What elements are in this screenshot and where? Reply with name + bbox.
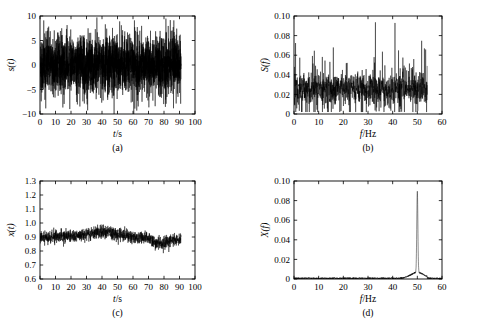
panel-a-xticklabel: 90 <box>175 117 185 127</box>
panel-a-plot: 0102030405060708090100−10−50510s(t)t/s(a… <box>0 0 248 166</box>
panel-d-caption: (d) <box>362 308 373 319</box>
panel-c-xticklabel: 30 <box>82 282 92 292</box>
panel-b-xticklabel: 60 <box>438 117 448 127</box>
panel-b-yticklabel: 0.10 <box>274 11 290 21</box>
panel-c-yticklabel: 0.7 <box>25 260 37 270</box>
panel-a-yticklabel: −5 <box>26 85 36 95</box>
panel-a-caption: (a) <box>112 143 123 154</box>
panel-b-yticklabel: 0 <box>286 109 291 119</box>
panel-b-xticklabel: 10 <box>314 117 324 127</box>
panel-c-yticklabel: 0.6 <box>25 274 37 284</box>
figure-container: 0102030405060708090100−10−50510s(t)t/s(a… <box>0 0 495 331</box>
panel-a-data-trace <box>40 17 181 114</box>
panel-b-xticklabel: 30 <box>364 117 374 127</box>
panel-b-yticklabel: 0.02 <box>274 90 290 100</box>
panel-d-xticklabel: 30 <box>364 282 374 292</box>
panel-a-xticklabel: 30 <box>82 117 92 127</box>
panel-c-xticklabel: 50 <box>113 282 123 292</box>
panel-d-yticklabel: 0 <box>286 274 291 284</box>
panel-c-xticklabel: 60 <box>129 282 139 292</box>
panel-d-yticklabel: 0.02 <box>274 255 290 265</box>
panel-c-xticklabel: 100 <box>188 282 202 292</box>
panel-d-plot: 010203040506000.020.040.060.080.10X(f)f/… <box>247 165 495 331</box>
panel-c-yticklabel: 0.8 <box>25 246 37 256</box>
panel-c-data-trace <box>40 225 181 254</box>
panel-b-xticklabel: 40 <box>388 117 398 127</box>
panel-b-plot: 010203040506000.020.040.060.080.10S(f)f/… <box>247 0 495 166</box>
panel-c-plot: 01020304050607080901000.60.70.80.91.01.1… <box>0 165 248 331</box>
panel-c-ylabel: x(t) <box>6 223 17 237</box>
panel-d-data-trace <box>294 191 442 279</box>
panel-a-xticklabel: 20 <box>67 117 77 127</box>
panel-a-xticklabel: 80 <box>160 117 170 127</box>
panel-c: 01020304050607080901000.60.70.80.91.01.1… <box>0 165 248 331</box>
panel-b-yticklabel: 0.08 <box>274 31 290 41</box>
panel-a: 0102030405060708090100−10−50510s(t)t/s(a… <box>0 0 248 166</box>
panel-c-xlabel: t/s <box>113 294 122 304</box>
panel-a-xticklabel: 50 <box>113 117 123 127</box>
panel-b-xticklabel: 0 <box>292 117 297 127</box>
panel-c-xticklabel: 10 <box>51 282 61 292</box>
panel-d-xlabel: f/Hz <box>360 294 376 304</box>
panel-a-ylabel: s(t) <box>6 59 17 72</box>
panel-d-ylabel: X(f) <box>260 223 271 239</box>
panel-b-ylabel: S(f) <box>260 58 271 72</box>
panel-b-xlabel: f/Hz <box>360 129 376 139</box>
panel-b-xticklabel: 20 <box>339 117 349 127</box>
panel-c-xticklabel: 90 <box>175 282 185 292</box>
panel-a-xticklabel: 40 <box>98 117 108 127</box>
panel-d-xticklabel: 60 <box>438 282 448 292</box>
panel-c-yticklabel: 0.9 <box>25 232 37 242</box>
panel-c-xticklabel: 40 <box>98 282 108 292</box>
panel-a-yticklabel: −10 <box>22 109 37 119</box>
panel-d-xticklabel: 10 <box>314 282 324 292</box>
panel-a-yticklabel: 0 <box>32 60 37 70</box>
panel-d-xticklabel: 0 <box>292 282 297 292</box>
panel-c-caption: (c) <box>112 308 123 319</box>
panel-b-xticklabel: 50 <box>413 117 423 127</box>
panel-b-yticklabel: 0.04 <box>274 70 290 80</box>
panel-a-xticklabel: 100 <box>188 117 202 127</box>
panel-c-xticklabel: 70 <box>144 282 154 292</box>
panel-c-yticklabel: 1.0 <box>25 218 37 228</box>
panel-a-xticklabel: 60 <box>129 117 139 127</box>
panel-a-xticklabel: 10 <box>51 117 61 127</box>
panel-b: 010203040506000.020.040.060.080.10S(f)f/… <box>247 0 495 166</box>
panel-a-xticklabel: 70 <box>144 117 154 127</box>
panel-d-yticklabel: 0.08 <box>274 196 290 206</box>
panel-d-yticklabel: 0.06 <box>274 215 290 225</box>
panel-d-axes-frame <box>294 181 442 279</box>
panel-c-yticklabel: 1.3 <box>25 176 37 186</box>
panel-c-axes-frame <box>40 181 195 279</box>
panel-d: 010203040506000.020.040.060.080.10X(f)f/… <box>247 165 495 331</box>
panel-b-yticklabel: 0.06 <box>274 50 290 60</box>
panel-b-caption: (b) <box>362 143 373 154</box>
panel-d-xticklabel: 50 <box>413 282 423 292</box>
panel-a-yticklabel: 5 <box>32 36 37 46</box>
panel-b-data-trace <box>294 22 427 112</box>
panel-a-yticklabel: 10 <box>27 11 37 21</box>
panel-d-xticklabel: 20 <box>339 282 349 292</box>
panel-d-xticklabel: 40 <box>388 282 398 292</box>
panel-a-xlabel: t/s <box>113 129 122 139</box>
panel-c-yticklabel: 1.2 <box>25 190 36 200</box>
panel-c-xticklabel: 20 <box>67 282 77 292</box>
panel-c-xticklabel: 80 <box>160 282 170 292</box>
panel-c-yticklabel: 1.1 <box>25 204 36 214</box>
panel-a-xticklabel: 0 <box>38 117 43 127</box>
panel-d-yticklabel: 0.10 <box>274 176 290 186</box>
panel-c-xticklabel: 0 <box>38 282 43 292</box>
panel-d-yticklabel: 0.04 <box>274 235 290 245</box>
